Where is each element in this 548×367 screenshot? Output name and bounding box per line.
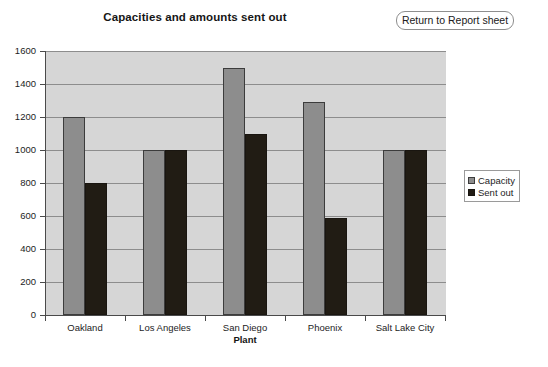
y-tick-mark [40,117,45,118]
y-tick-mark [40,282,45,283]
y-tick-label: 600 [2,211,36,220]
legend-label: Capacity [478,175,515,186]
y-tick-label: 800 [2,178,36,187]
y-tick-mark [40,249,45,250]
bar-san-diego-capacity [223,68,245,316]
page-title: Capacities and amounts sent out [0,11,390,23]
y-tick-label: 1600 [2,46,36,55]
gridline [46,84,446,85]
x-tick-label: Los Angeles [125,322,205,333]
bar-salt-lake-city-capacity [383,150,405,315]
y-tick-mark [40,51,45,52]
x-tick-mark [445,316,446,321]
bar-los-angeles-capacity [143,150,165,315]
x-axis-title: Plant [45,334,445,345]
x-tick-label: Salt Lake City [365,322,445,333]
x-tick-label: San Diego [205,322,285,333]
legend-swatch-icon [468,189,475,196]
legend-item-sent-out[interactable]: Sent out [468,186,515,198]
bar-los-angeles-sent-out [165,150,187,315]
bar-oakland-capacity [63,117,85,315]
y-tick-label: 1000 [2,145,36,154]
y-tick-mark [40,183,45,184]
x-tick-mark [125,316,126,321]
x-tick-mark [285,316,286,321]
y-tick-label: 200 [2,277,36,286]
x-tick-label: Oakland [45,322,125,333]
bar-salt-lake-city-sent-out [405,150,427,315]
y-tick-mark [40,84,45,85]
bar-san-diego-sent-out [245,134,267,316]
legend-swatch-icon [468,177,475,184]
y-tick-label: 1400 [2,79,36,88]
x-tick-mark [365,316,366,321]
bar-phoenix-capacity [303,102,325,315]
y-tick-mark [40,216,45,217]
legend-label: Sent out [478,187,513,198]
bar-oakland-sent-out [85,183,107,315]
x-tick-mark [205,316,206,321]
x-tick-label: Phoenix [285,322,365,333]
x-tick-mark [45,316,46,321]
chart-legend: CapacitySent out [464,170,520,202]
y-tick-mark [40,150,45,151]
y-tick-label: 0 [2,310,36,319]
gridline [46,51,446,52]
gridline [46,117,446,118]
y-tick-label: 1200 [2,112,36,121]
return-to-report-sheet-button[interactable]: Return to Report sheet [396,11,514,30]
y-tick-label: 400 [2,244,36,253]
legend-item-capacity[interactable]: Capacity [468,174,515,186]
bar-phoenix-sent-out [325,218,347,315]
